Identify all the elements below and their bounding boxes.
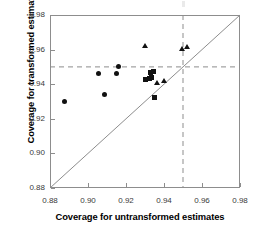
data-point-triangle — [142, 43, 148, 48]
x-tick-label: 0.94 — [147, 196, 181, 205]
y-tick-mark — [51, 153, 55, 154]
x-tick-mark — [164, 183, 165, 187]
x-tick-mark — [50, 183, 51, 187]
data-point-square — [151, 69, 156, 74]
y-tick-mark — [51, 15, 55, 16]
y-tick-label: 0.92 — [11, 114, 45, 123]
y-tick-mark — [51, 84, 55, 85]
x-axis-label: Coverage for untransformed estimates — [20, 211, 260, 222]
diagonal-line — [50, 15, 240, 188]
x-tick-label: 0.96 — [185, 196, 219, 205]
data-point-circle — [102, 92, 107, 97]
x-tick-mark — [88, 183, 89, 187]
x-tick-mark — [202, 183, 203, 187]
x-tick-label: 0.88 — [33, 196, 67, 205]
data-point-circle — [116, 64, 121, 69]
scatter-plot-figure: Coverage for transformed estimates Cover… — [0, 0, 265, 235]
x-tick-mark — [126, 183, 127, 187]
x-tick-label: 0.98 — [223, 196, 257, 205]
top-edge-artifact — [182, 1, 185, 7]
x-tick-label: 0.92 — [109, 196, 143, 205]
data-point-circle — [62, 99, 67, 104]
y-tick-label: 0.94 — [11, 79, 45, 88]
x-tick-mark — [240, 183, 241, 187]
identity-reference-line — [50, 15, 240, 188]
y-tick-label: 0.96 — [11, 45, 45, 54]
y-tick-mark — [51, 50, 55, 51]
y-tick-label: 0.88 — [11, 183, 45, 192]
data-point-triangle — [154, 80, 160, 85]
y-tick-label: 0.90 — [11, 148, 45, 157]
y-tick-label: 0.98 — [11, 10, 45, 19]
x-tick-label: 0.90 — [71, 196, 105, 205]
data-point-square — [152, 95, 157, 100]
data-point-triangle — [184, 44, 190, 49]
y-tick-mark — [51, 188, 55, 189]
y-tick-mark — [51, 119, 55, 120]
data-point-triangle — [161, 78, 167, 83]
data-point-square — [147, 76, 152, 81]
